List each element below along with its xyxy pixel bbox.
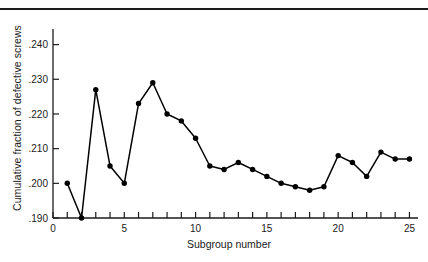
x-tick-label: 25 bbox=[404, 223, 416, 234]
data-point-marker bbox=[407, 156, 412, 161]
y-tick-label: .200 bbox=[29, 178, 49, 189]
series-polyline bbox=[67, 83, 409, 218]
data-point-marker bbox=[221, 167, 226, 172]
data-point-marker bbox=[122, 181, 127, 186]
data-point-marker bbox=[264, 174, 269, 179]
data-point-marker bbox=[164, 111, 169, 116]
y-tick-label: .190 bbox=[29, 213, 49, 224]
y-tick-label: .230 bbox=[29, 74, 49, 85]
data-point-marker bbox=[79, 215, 84, 220]
data-point-marker bbox=[193, 136, 198, 141]
data-point-marker bbox=[307, 188, 312, 193]
data-point-marker bbox=[136, 101, 141, 106]
x-tick-label: 10 bbox=[190, 223, 202, 234]
x-tick-label: 5 bbox=[122, 223, 128, 234]
data-point-marker bbox=[364, 174, 369, 179]
data-point-marker bbox=[378, 149, 383, 154]
data-point-marker bbox=[335, 153, 340, 158]
data-point-marker bbox=[278, 181, 283, 186]
data-point-marker bbox=[107, 163, 112, 168]
chart-figure: Cumulative fraction of defective screws … bbox=[0, 0, 428, 262]
data-point-marker bbox=[392, 156, 397, 161]
chart-plot-area: .190.200.210.220.230.240 0510152025 bbox=[0, 0, 428, 262]
x-tick-label: 20 bbox=[333, 223, 345, 234]
data-point-marker bbox=[150, 80, 155, 85]
data-point-marker bbox=[250, 167, 255, 172]
y-axis-ticks: .190.200.210.220.230.240 bbox=[29, 39, 59, 223]
x-tick-label: 0 bbox=[50, 223, 56, 234]
data-point-marker bbox=[236, 160, 241, 165]
data-point-marker bbox=[179, 118, 184, 123]
y-tick-label: .210 bbox=[29, 143, 49, 154]
data-point-marker bbox=[350, 160, 355, 165]
y-tick-label: .220 bbox=[29, 109, 49, 120]
data-point-marker bbox=[65, 181, 70, 186]
y-tick-label: .240 bbox=[29, 39, 49, 50]
data-point-marker bbox=[93, 87, 98, 92]
data-point-marker bbox=[293, 184, 298, 189]
data-point-marker bbox=[207, 163, 212, 168]
axes bbox=[53, 29, 418, 218]
x-tick-label: 15 bbox=[261, 223, 273, 234]
data-point-markers bbox=[65, 80, 413, 221]
data-series-line bbox=[67, 83, 409, 218]
x-axis-ticks: 0510152025 bbox=[50, 212, 415, 234]
data-point-marker bbox=[321, 184, 326, 189]
